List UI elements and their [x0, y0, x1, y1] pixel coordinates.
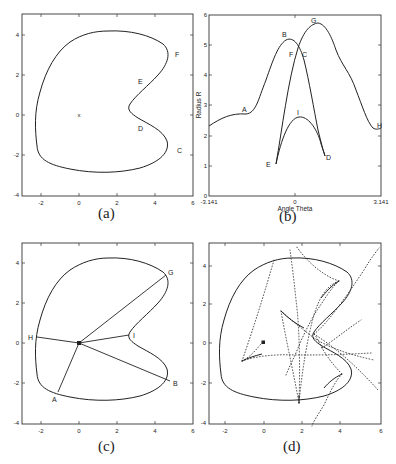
y-axis-title: Radius R — [195, 91, 202, 118]
curve-eid — [276, 117, 325, 164]
x-tick-label: -2 — [38, 428, 44, 434]
x-tick-label: -2 — [222, 428, 228, 434]
y-tick-label: 4 — [16, 260, 20, 266]
panel-c: -2 0 2 4 6 4 2 0 -2 -4 G H I A B (c) — [0, 230, 198, 464]
kidney-contour — [35, 258, 168, 400]
x-tick-label: -3.141 — [200, 199, 218, 205]
x-tick-label: 2 — [115, 428, 119, 434]
x-tick-label: -2 — [38, 200, 44, 206]
point-label-c: C — [177, 147, 182, 154]
point-label-c: C — [302, 51, 307, 58]
y-tick-label: 0 — [16, 112, 20, 118]
y-tick-label: -4 — [14, 420, 20, 426]
rays — [37, 275, 170, 392]
point-label-a: A — [52, 396, 57, 403]
x-tick-label: 0 — [77, 428, 81, 434]
x-tick-label: 3.141 — [373, 199, 389, 205]
curve-abcd — [209, 39, 325, 156]
reference-point — [77, 341, 81, 345]
axes-frame — [22, 14, 193, 196]
panel-d-plot: -2 0 2 4 6 4 2 0 -2 -4 — [196, 230, 396, 464]
y-tick-label: -2 — [14, 152, 20, 158]
kidney-contour — [35, 31, 168, 172]
x-tick-label: 2 — [115, 200, 119, 206]
y-tick-label: -4 — [201, 420, 207, 426]
kidney-contour — [219, 258, 352, 400]
y-tick-label: 4 — [204, 72, 208, 78]
x-tick-label: 2 — [300, 428, 304, 434]
y-tick-label: 4 — [16, 32, 20, 38]
y-tick-label: 2 — [203, 301, 207, 307]
point-label-f: F — [175, 51, 179, 58]
y-tick-label: -4 — [14, 192, 20, 198]
x-ticks — [22, 14, 193, 196]
y-tick-label: 1 — [204, 163, 208, 169]
panel-d: -2 0 2 4 6 4 2 0 -2 -4 — [196, 230, 396, 464]
y-tick-label: 0 — [16, 340, 20, 346]
panel-c-plot: -2 0 2 4 6 4 2 0 -2 -4 G H I A B — [0, 230, 198, 464]
x-tick-label: 4 — [153, 200, 157, 206]
y-tick-label: -2 — [201, 380, 207, 386]
y-tick-label: 6 — [204, 12, 208, 18]
x-tick-label: 0 — [262, 428, 266, 434]
y-tick-label: 0 — [203, 340, 207, 346]
y-tick-label: 2 — [16, 72, 20, 78]
x-tick-label: 6 — [379, 428, 383, 434]
panel-a-plot: -2 0 2 4 6 4 2 0 -2 -4 x F E D C — [0, 0, 198, 232]
point-label-e: E — [138, 78, 143, 85]
reference-point-marker: x — [78, 112, 81, 118]
ray-b — [79, 343, 170, 381]
point-label-i: I — [133, 332, 135, 339]
point-label-b: B — [282, 31, 287, 38]
point-label-d: D — [138, 125, 143, 132]
x-tick-label: 6 — [191, 428, 195, 434]
panel-b-plot: 0 1 2 3 4 5 6 -3.141 0 3.141 Angle Theta… — [196, 0, 396, 232]
caption-a: (a) — [98, 205, 115, 222]
reference-point — [262, 341, 266, 345]
y-tick-label: 2 — [204, 133, 208, 139]
panel-a: -2 0 2 4 6 4 2 0 -2 -4 x F E D C (a) — [0, 0, 198, 232]
point-label-b: B — [173, 380, 178, 387]
y-tick-label: 4 — [203, 263, 207, 269]
y-tick-label: 2 — [16, 300, 20, 306]
point-label-g: G — [168, 269, 173, 276]
point-label-d: D — [326, 154, 331, 161]
x-tick-label: 4 — [338, 428, 342, 434]
x-tick-label: 4 — [153, 428, 157, 434]
ray-a — [58, 343, 79, 392]
axes-frame — [209, 243, 381, 424]
point-label-h: H — [28, 334, 33, 341]
caption-b: (b) — [279, 208, 297, 225]
point-label-i: I — [297, 109, 299, 116]
ray-h — [37, 337, 79, 343]
x-tick-label: 6 — [191, 200, 195, 206]
medial-axis-solid — [242, 281, 342, 403]
x-tick-label: 0 — [77, 200, 81, 206]
point-label-f: F — [289, 51, 293, 58]
caption-c: (c) — [98, 438, 115, 455]
y-tick-label: 3 — [204, 102, 208, 108]
point-label-g: G — [311, 17, 316, 24]
ray-g — [79, 275, 166, 343]
y-tick-label: 5 — [204, 42, 208, 48]
point-label-h: H — [377, 122, 382, 129]
ray-i — [79, 335, 129, 343]
point-label-e: E — [266, 161, 271, 168]
point-label-a: A — [242, 106, 247, 113]
panel-b: 0 1 2 3 4 5 6 -3.141 0 3.141 Angle Theta… — [196, 0, 396, 232]
ticks — [209, 243, 381, 424]
y-tick-label: -2 — [14, 380, 20, 386]
curve-efgh — [276, 23, 381, 164]
caption-d: (d) — [283, 438, 301, 455]
